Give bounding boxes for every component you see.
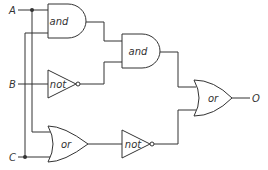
- or-gate-1: or: [48, 126, 88, 162]
- input-b-label: B: [9, 79, 16, 90]
- circuit-svg: and and not or not or A B C O: [0, 0, 268, 170]
- wire-not1-to-and2: [80, 62, 122, 84]
- wire-not2-to-or2: [154, 110, 196, 144]
- and-gate-2: and: [122, 34, 160, 68]
- not-gate-2-label: not: [125, 139, 142, 150]
- and-gate-1: and: [48, 4, 86, 38]
- and-gate-2-label: and: [129, 46, 148, 57]
- junction-dot-a: [30, 8, 34, 12]
- or-gate-2: or: [194, 80, 232, 116]
- not-gate-2: not: [122, 130, 154, 158]
- wire-and2-to-or2: [160, 52, 196, 87]
- junction-dot-c: [23, 155, 27, 159]
- not-gate-1: not: [48, 70, 80, 98]
- input-a-label: A: [8, 5, 16, 16]
- logic-circuit-diagram: and and not or not or A B C O: [0, 0, 268, 170]
- not-gate-1-label: not: [50, 79, 67, 90]
- or-gate-2-label: or: [208, 93, 219, 104]
- or-gate-1-label: or: [61, 139, 72, 150]
- wire-c-to-and1: [25, 33, 48, 157]
- output-o-label: O: [252, 93, 260, 104]
- wire-and1-to-and2: [86, 22, 122, 41]
- and-gate-1-label: and: [50, 16, 69, 27]
- wire-a-to-or1: [32, 10, 50, 132]
- input-c-label: C: [9, 152, 16, 163]
